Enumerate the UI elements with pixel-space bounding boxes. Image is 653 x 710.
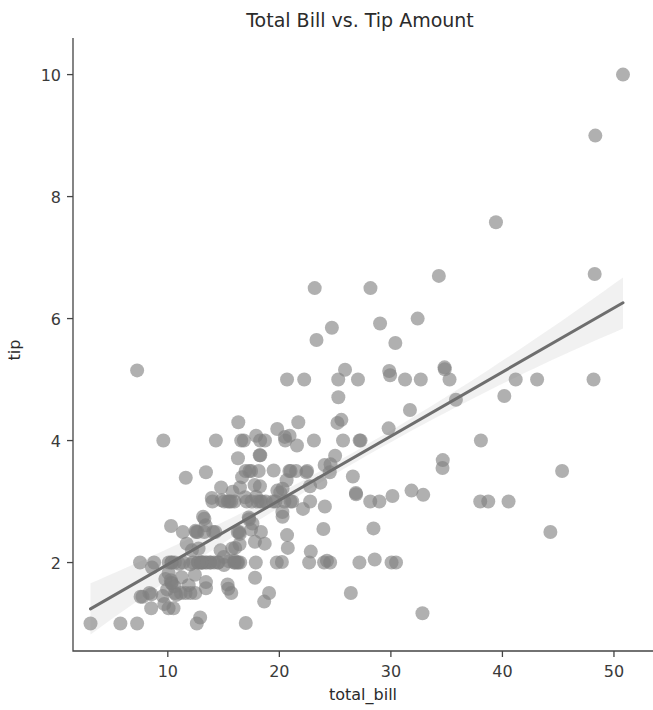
- scatter-point: [411, 312, 425, 326]
- y-tick-label: 10: [41, 66, 61, 85]
- scatter-point: [258, 537, 272, 551]
- scatter-point: [133, 556, 147, 570]
- scatter-point: [248, 571, 262, 585]
- y-axis-label: tip: [5, 340, 24, 361]
- scatter-point: [481, 495, 495, 509]
- scatter-point: [156, 434, 170, 448]
- x-tick-label: 50: [604, 662, 624, 681]
- scatter-point: [253, 479, 267, 493]
- scatter-point: [438, 362, 452, 376]
- scatter-point: [270, 422, 284, 436]
- scatter-point: [588, 267, 602, 281]
- scatter-point: [344, 586, 358, 600]
- scatter-point: [373, 316, 387, 330]
- scatter-point: [197, 512, 211, 526]
- scatter-point: [555, 464, 569, 478]
- scatter-point: [231, 451, 245, 465]
- scatter-point: [363, 281, 377, 295]
- scatter-point: [222, 495, 236, 509]
- scatter-point: [257, 595, 271, 609]
- scatter-point: [497, 389, 511, 403]
- scatter-point: [307, 434, 321, 448]
- scatter-point: [415, 606, 429, 620]
- scatter-point: [113, 617, 127, 631]
- scatter-point: [205, 495, 219, 509]
- scatter-point: [136, 590, 150, 604]
- scatter-point: [346, 470, 360, 484]
- scatter-point: [414, 373, 428, 387]
- scatter-point: [278, 434, 292, 448]
- scatter-point: [233, 481, 247, 495]
- scatter-point: [351, 373, 365, 387]
- scatter-point: [502, 495, 516, 509]
- scatter-point: [224, 586, 238, 600]
- scatter-point: [308, 281, 322, 295]
- scatter-point: [354, 434, 368, 448]
- scatter-point: [190, 617, 204, 631]
- scatter-point: [270, 556, 284, 570]
- scatter-point: [199, 581, 213, 595]
- scatter-point: [368, 553, 382, 567]
- scatter-point: [282, 464, 296, 478]
- scatter-point: [385, 489, 399, 503]
- scatter-point: [309, 333, 323, 347]
- scatter-point: [233, 537, 247, 551]
- scatter-point: [382, 364, 396, 378]
- scatter-point: [331, 390, 345, 404]
- scatter-point: [252, 464, 266, 478]
- scatter-point: [489, 215, 503, 229]
- scatter-point: [249, 556, 263, 570]
- scatter-point: [231, 415, 245, 429]
- scatter-point: [416, 488, 430, 502]
- chart-figure: Total Bill vs. Tip Amount 1020304050 246…: [0, 0, 653, 710]
- scatter-point: [398, 373, 412, 387]
- x-tick-label: 30: [381, 662, 401, 681]
- scatter-point: [130, 363, 144, 377]
- scatter-point: [403, 403, 417, 417]
- scatter-point: [239, 616, 253, 630]
- chart-title: Total Bill vs. Tip Amount: [245, 9, 474, 31]
- y-tick-label: 4: [51, 432, 61, 451]
- scatter-point: [209, 434, 223, 448]
- scatter-point: [281, 541, 295, 555]
- scatter-point: [317, 556, 331, 570]
- scatter-point: [316, 522, 330, 536]
- scatter-point: [436, 453, 450, 467]
- scatter-point: [325, 321, 339, 335]
- x-tick-label: 10: [158, 662, 178, 681]
- scatter-point: [222, 554, 236, 568]
- scatter-point: [616, 68, 630, 82]
- scatter-point: [388, 336, 402, 350]
- scatter-point: [318, 499, 332, 513]
- scatter-point: [280, 528, 294, 542]
- scatter-point: [199, 465, 213, 479]
- scatter-point: [432, 269, 446, 283]
- scatter-point: [296, 502, 310, 516]
- scatter-point: [530, 373, 544, 387]
- scatter-plot-canvas: Total Bill vs. Tip Amount 1020304050 246…: [0, 0, 653, 710]
- scatter-point: [245, 495, 259, 509]
- scatter-point: [164, 519, 178, 533]
- scatter-point: [130, 617, 144, 631]
- x-tick-label: 20: [269, 662, 289, 681]
- scatter-point: [179, 471, 193, 485]
- scatter-point: [258, 434, 272, 448]
- scatter-point: [336, 434, 350, 448]
- y-tick-label: 2: [51, 554, 61, 573]
- scatter-point: [588, 129, 602, 143]
- scatter-point: [194, 556, 208, 570]
- scatter-point: [84, 617, 98, 631]
- scatter-point: [234, 434, 248, 448]
- scatter-point: [267, 463, 281, 477]
- scatter-point: [144, 601, 158, 615]
- scatter-point: [352, 556, 366, 570]
- scatter-point: [366, 521, 380, 535]
- scatter-point: [338, 363, 352, 377]
- scatter-point: [197, 525, 211, 539]
- scatter-point: [543, 525, 557, 539]
- scatter-point: [280, 373, 294, 387]
- scatter-point: [169, 588, 183, 602]
- scatter-point: [253, 448, 267, 462]
- scatter-point: [349, 486, 363, 500]
- scatter-point: [291, 415, 305, 429]
